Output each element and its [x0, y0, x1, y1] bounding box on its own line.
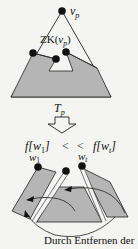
root-node [58, 7, 66, 15]
less-than-1: < [62, 139, 69, 153]
caption-text: Durch Entfernen der [44, 234, 134, 246]
label-wt: wt [78, 150, 88, 164]
diagram-canvas: vp ZK(vp) Tp f[w1] < < f[wt] [0, 0, 138, 249]
inequality: f[w1] < < f[wt] [25, 139, 116, 155]
bottom-subtrees: w1 wt [12, 150, 128, 237]
label-w1: w1 [29, 151, 40, 165]
tree-label: Tp [54, 101, 65, 117]
cut-node-2 [52, 55, 60, 63]
down-arrow-icon [48, 117, 76, 133]
cut-node-3 [62, 48, 70, 56]
inequality-right: f[wt] [93, 139, 116, 155]
node-middle [62, 167, 70, 175]
cut-node-1 [29, 49, 37, 57]
root-label: vp [70, 4, 79, 20]
top-tree: vp ZK(vp) Tp [11, 4, 111, 117]
